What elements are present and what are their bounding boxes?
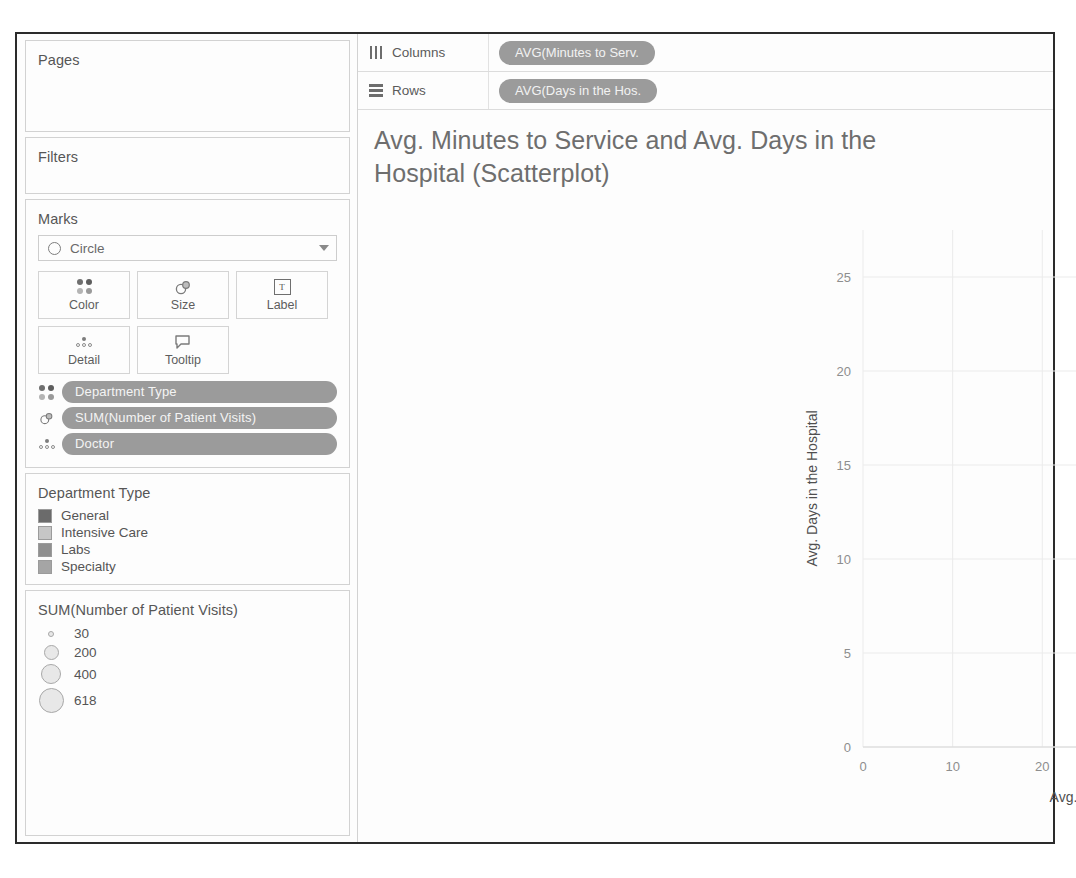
size-bubble-icon	[38, 645, 64, 660]
size-legend-item[interactable]: 618	[26, 686, 349, 715]
scatterplot[interactable]: 01020304050 0510152025 Avg. Minutes to S…	[801, 220, 1076, 825]
detail-dots-icon	[76, 333, 92, 350]
left-sidebar: Pages Filters Marks Circle Color	[17, 34, 357, 842]
label-text-icon: T	[274, 278, 291, 295]
marks-size-button[interactable]: Size	[137, 271, 229, 319]
y-tick-label: 15	[837, 458, 851, 473]
marks-label-label: Label	[267, 298, 298, 312]
tooltip-bubble-icon	[174, 333, 192, 350]
size-bubble-icon	[38, 688, 64, 713]
size-legend-card: SUM(Number of Patient Visits) 30 200 400	[25, 590, 350, 836]
marks-tooltip-label: Tooltip	[165, 353, 201, 367]
marks-pill-doctor[interactable]: Doctor	[26, 433, 349, 455]
x-axis-title: Avg. Minutes to Service	[1050, 789, 1076, 805]
legend-item-label: Intensive Care	[61, 525, 148, 540]
columns-shelf-label: Columns	[392, 45, 488, 60]
x-tick-label: 0	[859, 759, 866, 774]
rows-shelf[interactable]: Rows AVG(Days in the Hos.	[358, 72, 1053, 110]
size-legend-item-label: 30	[74, 626, 89, 641]
y-tick-label: 20	[837, 364, 851, 379]
rows-shelf-label: Rows	[392, 83, 488, 98]
marks-color-label: Color	[69, 298, 99, 312]
marks-pill-patient-visits[interactable]: SUM(Number of Patient Visits)	[26, 407, 349, 429]
rows-icon	[368, 84, 384, 96]
marks-pill-label: Department Type	[62, 381, 337, 403]
legend-item[interactable]: General	[26, 507, 349, 524]
columns-shelf-slot[interactable]: AVG(Minutes to Serv.	[488, 34, 1053, 71]
marks-label-button[interactable]: T Label	[236, 271, 328, 319]
color-legend-card: Department Type General Intensive Care L…	[25, 473, 350, 585]
mark-type-value: Circle	[70, 241, 105, 256]
marks-detail-button[interactable]: Detail	[38, 326, 130, 374]
circle-outline-icon	[48, 242, 61, 255]
columns-shelf[interactable]: Columns AVG(Minutes to Serv.	[358, 34, 1053, 72]
marks-pill-label: Doctor	[62, 433, 337, 455]
legend-item[interactable]: Labs	[26, 541, 349, 558]
marks-color-button[interactable]: Color	[38, 271, 130, 319]
size-legend-item[interactable]: 400	[26, 662, 349, 686]
legend-item-label: Labs	[61, 542, 90, 557]
color-dots-icon	[38, 385, 55, 400]
marks-title: Marks	[26, 200, 349, 233]
marks-card: Marks Circle Color	[25, 199, 350, 468]
mark-type-dropdown[interactable]: Circle	[38, 235, 337, 261]
size-legend-item-label: 618	[74, 693, 97, 708]
size-legend-title: SUM(Number of Patient Visits)	[26, 591, 349, 624]
x-axis-ticks: 01020304050	[859, 759, 1076, 774]
detail-dots-icon	[38, 439, 55, 449]
columns-icon	[368, 46, 384, 59]
rows-shelf-slot[interactable]: AVG(Days in the Hos.	[488, 72, 1053, 109]
size-bubbles-icon	[173, 278, 193, 295]
marks-pill-label: SUM(Number of Patient Visits)	[62, 407, 337, 429]
legend-item-label: Specialty	[61, 559, 116, 574]
y-tick-label: 25	[837, 270, 851, 285]
filters-card[interactable]: Filters	[25, 137, 350, 194]
chevron-down-icon[interactable]	[319, 245, 329, 251]
viz-pane: Avg. Minutes to Service and Avg. Days in…	[358, 110, 1053, 842]
marks-buttons-row-2: Detail Tooltip	[26, 326, 349, 374]
size-legend-item[interactable]: 200	[26, 643, 349, 662]
gridlines	[863, 230, 1076, 747]
color-swatch	[38, 509, 52, 523]
marks-pill-department-type[interactable]: Department Type	[26, 381, 349, 403]
x-tick-label: 10	[945, 759, 959, 774]
rows-pill[interactable]: AVG(Days in the Hos.	[499, 79, 657, 103]
page-title: Avg. Minutes to Service and Avg. Days in…	[374, 124, 974, 190]
marks-detail-label: Detail	[68, 353, 100, 367]
color-swatch	[38, 543, 52, 557]
y-tick-label: 10	[837, 552, 851, 567]
pages-card[interactable]: Pages	[25, 40, 350, 132]
y-tick-label: 0	[844, 740, 851, 755]
legend-item-label: General	[61, 508, 109, 523]
filters-title: Filters	[26, 138, 349, 171]
marks-tooltip-button[interactable]: Tooltip	[137, 326, 229, 374]
size-bubble-icon	[38, 631, 64, 637]
size-bubbles-icon	[38, 410, 55, 426]
size-legend-item[interactable]: 30	[26, 624, 349, 643]
y-axis-title: Avg. Days in the Hospital	[804, 410, 820, 566]
scatterplot-svg[interactable]: 01020304050 0510152025 Avg. Minutes to S…	[801, 220, 1076, 825]
size-legend-item-label: 200	[74, 645, 97, 660]
y-axis-ticks: 0510152025	[837, 270, 851, 755]
color-swatch	[38, 526, 52, 540]
viz-side: Columns AVG(Minutes to Serv. Rows AVG(Da…	[357, 34, 1053, 842]
color-dots-icon	[77, 278, 92, 295]
color-swatch	[38, 560, 52, 574]
marks-buttons-row-1: Color Size T Label	[26, 271, 349, 319]
size-legend-item-label: 400	[74, 667, 97, 682]
color-legend-title: Department Type	[26, 474, 349, 507]
legend-item[interactable]: Specialty	[26, 558, 349, 575]
legend-item[interactable]: Intensive Care	[26, 524, 349, 541]
marks-size-label: Size	[171, 298, 195, 312]
tableau-window: Pages Filters Marks Circle Color	[15, 32, 1055, 844]
columns-pill[interactable]: AVG(Minutes to Serv.	[499, 41, 655, 65]
size-bubble-icon	[38, 664, 64, 684]
pages-title: Pages	[26, 41, 349, 74]
y-tick-label: 5	[844, 646, 851, 661]
x-tick-label: 20	[1035, 759, 1049, 774]
